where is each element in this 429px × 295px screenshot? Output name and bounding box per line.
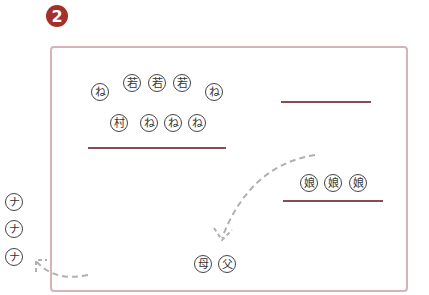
dashed-arrows	[0, 0, 429, 295]
